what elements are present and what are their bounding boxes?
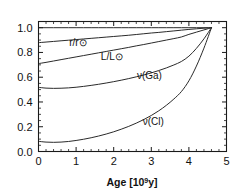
x-tick-label: 3 xyxy=(148,155,154,167)
y-tick-label: 0.0 xyxy=(17,146,32,158)
solar-evolution-chart: 012345 0.00.20.40.60.81.0 r/r⊙L/L⊙ν(Ga)ν… xyxy=(0,0,247,194)
x-tick-label: 5 xyxy=(223,155,229,167)
y-tick-label: 0.8 xyxy=(17,46,32,58)
curve-label-radius: r/r⊙ xyxy=(69,37,86,48)
y-tick-label: 0.2 xyxy=(17,121,32,133)
x-axis-title-tail: y] xyxy=(148,176,157,188)
y-tick-label: 1.0 xyxy=(17,22,32,34)
plot-canvas: 012345 0.00.20.40.60.81.0 r/r⊙L/L⊙ν(Ga)ν… xyxy=(0,0,247,194)
x-tick-label: 0 xyxy=(35,155,41,167)
curve-label-luminosity: L/L⊙ xyxy=(101,51,123,62)
x-tick-label: 1 xyxy=(73,155,79,167)
curve-label-neutrino-gallium: ν(Ga) xyxy=(137,70,162,81)
y-tick-label: 0.6 xyxy=(17,71,32,83)
x-tick-label: 2 xyxy=(111,155,117,167)
curve-label-neutrino-chlorine: ν(Cl) xyxy=(143,116,164,127)
x-tick-label: 4 xyxy=(186,155,192,167)
x-axis-title: Age [109y] xyxy=(106,176,157,188)
y-tick-label: 0.4 xyxy=(17,96,32,108)
x-axis-title-text: Age [109y] xyxy=(106,176,157,188)
x-axis-title-base: Age [10 xyxy=(106,176,144,188)
